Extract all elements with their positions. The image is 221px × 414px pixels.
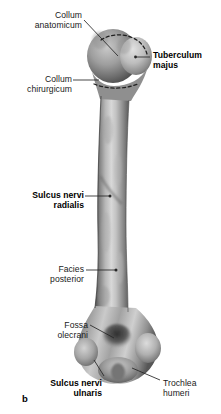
trochlea-groove — [111, 363, 125, 381]
label-facies-posterior-line1: Facies — [8, 264, 84, 274]
figure-letter: b — [22, 393, 28, 404]
label-trochlea-humeri: Trochlea humeri — [163, 378, 221, 399]
label-tuberculum-majus-line2: majus — [153, 60, 221, 70]
label-trochlea-humeri-line1: Trochlea — [163, 378, 221, 388]
leader-dot-facies-posterior — [115, 269, 118, 272]
label-collum-anatomicum: Collum anatomicum — [2, 10, 82, 31]
leader-dot-tuberculum-majus — [134, 56, 137, 59]
label-fossa-olecrani-line2: olecrani — [14, 330, 88, 340]
label-sulcus-nervi-ulnaris-line2: ulnaris — [0, 388, 102, 398]
label-sulcus-nervi-radialis-line1: Sulcus nervi — [0, 190, 84, 200]
label-collum-anatomicum-line1: Collum — [2, 10, 82, 20]
label-collum-anatomicum-line2: anatomicum — [2, 20, 82, 30]
label-collum-chirurgicum-line1: Collum — [0, 74, 72, 84]
label-tuberculum-majus-line1: Tuberculum — [153, 50, 221, 60]
label-facies-posterior-line2: posterior — [8, 274, 84, 284]
label-sulcus-nervi-radialis: Sulcus nervi radialis — [0, 190, 84, 211]
label-sulcus-nervi-ulnaris: Sulcus nervi ulnaris — [0, 378, 102, 399]
label-trochlea-humeri-line2: humeri — [163, 388, 221, 398]
leader-dot-sulcus-nervi-radialis — [109, 195, 112, 198]
label-facies-posterior: Facies posterior — [8, 264, 84, 285]
label-collum-chirurgicum-line2: chirurgicum — [0, 84, 72, 94]
label-sulcus-nervi-radialis-line2: radialis — [0, 200, 84, 210]
label-fossa-olecrani-line1: Fossa — [14, 320, 88, 330]
label-fossa-olecrani: Fossa olecrani — [14, 320, 88, 341]
label-tuberculum-majus: Tuberculum majus — [153, 50, 221, 71]
epicondylus-lateralis — [135, 333, 161, 363]
epicondylus-medialis — [74, 338, 98, 366]
label-collum-chirurgicum: Collum chirurgicum — [0, 74, 72, 95]
fossa-olecrani-depression — [103, 324, 131, 348]
label-sulcus-nervi-ulnaris-line1: Sulcus nervi — [0, 378, 102, 388]
